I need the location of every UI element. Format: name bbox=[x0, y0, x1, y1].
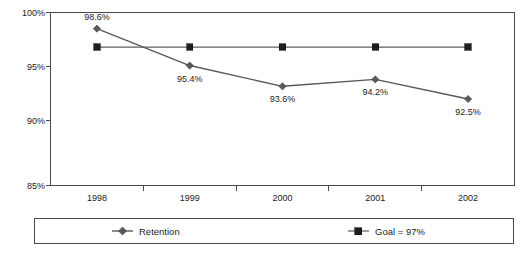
y-axis: 100% 95% 90% 85% bbox=[22, 8, 51, 191]
chart-canvas: 100% 95% 90% 85% 1998 1999 2 bbox=[0, 0, 527, 256]
diamond-marker-icon bbox=[186, 62, 193, 69]
y-tick-label: 85% bbox=[27, 181, 45, 191]
square-marker-icon bbox=[372, 44, 378, 50]
data-point-label: 94.2% bbox=[363, 87, 389, 97]
series-layer bbox=[93, 25, 471, 103]
diamond-marker-icon bbox=[372, 76, 379, 83]
square-marker-icon bbox=[355, 228, 362, 235]
chart-legend: Retention Goal = 97% bbox=[35, 219, 514, 244]
x-category-label: 1998 bbox=[87, 193, 107, 203]
legend-frame bbox=[35, 219, 514, 244]
data-point-label: 95.4% bbox=[177, 74, 203, 84]
data-point-label: 93.6% bbox=[270, 94, 296, 104]
legend-label-goal: Goal = 97% bbox=[375, 226, 425, 237]
x-category-label: 2000 bbox=[272, 193, 292, 203]
y-tick-2: 90% bbox=[27, 116, 51, 126]
x-category-label: 2002 bbox=[458, 193, 478, 203]
legend-entry-retention[interactable]: Retention bbox=[112, 226, 180, 237]
legend-label-retention: Retention bbox=[139, 226, 180, 237]
x-category-label: 2001 bbox=[365, 193, 385, 203]
square-marker-icon bbox=[187, 44, 193, 50]
y-tick-1: 95% bbox=[27, 62, 51, 72]
y-tick-0: 100% bbox=[22, 8, 51, 18]
x-category-label: 1999 bbox=[180, 193, 200, 203]
square-marker-icon bbox=[94, 44, 100, 50]
diamond-marker-icon bbox=[279, 83, 286, 90]
diamond-marker-icon bbox=[93, 25, 100, 32]
y-tick-label: 95% bbox=[27, 62, 45, 72]
square-marker-icon bbox=[279, 44, 285, 50]
data-point-label: 98.6% bbox=[84, 12, 110, 22]
series-retention bbox=[93, 25, 471, 103]
data-point-label: 92.5% bbox=[455, 107, 481, 117]
retention-chart: 100% 95% 90% 85% 1998 1999 2 bbox=[0, 0, 527, 256]
y-tick-label: 90% bbox=[27, 116, 45, 126]
x-axis: 1998 1999 2000 2001 2002 bbox=[87, 186, 478, 204]
data-labels-layer: 98.6%95.4%93.6%94.2%92.5% bbox=[84, 12, 481, 117]
y-tick-3: 85% bbox=[27, 181, 51, 191]
y-tick-label: 100% bbox=[22, 8, 45, 18]
diamond-marker-icon bbox=[465, 95, 472, 102]
square-marker-icon bbox=[465, 44, 471, 50]
